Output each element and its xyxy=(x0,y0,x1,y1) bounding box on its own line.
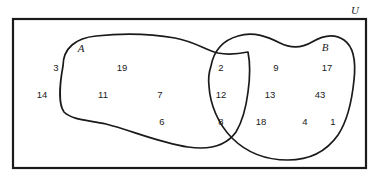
region-b-only-elements: 9 17 13 43 18 4 1 xyxy=(256,62,336,127)
element-value: 18 xyxy=(256,116,267,127)
venn-diagram-canvas: U A B 3 19 14 11 7 6 2 12 8 9 17 13 43 1… xyxy=(0,0,378,182)
element-value: 17 xyxy=(322,62,333,73)
venn-diagram-svg: U A B 3 19 14 11 7 6 2 12 8 9 17 13 43 1… xyxy=(0,0,378,182)
universe-label: U xyxy=(351,4,360,16)
element-value: 6 xyxy=(159,116,164,127)
element-value: 2 xyxy=(218,62,223,73)
element-value: 43 xyxy=(315,89,326,100)
element-value: 3 xyxy=(53,62,58,73)
set-a-label: A xyxy=(77,42,85,54)
region-a-only-elements: 3 19 14 11 7 6 xyxy=(37,62,165,127)
element-value: 13 xyxy=(265,89,276,100)
element-value: 11 xyxy=(98,89,108,100)
set-b-outline xyxy=(209,34,355,160)
element-value: 12 xyxy=(216,89,227,100)
element-value: 1 xyxy=(330,116,335,127)
set-b-label: B xyxy=(322,41,329,53)
element-value: 4 xyxy=(302,116,307,127)
element-value: 7 xyxy=(157,89,162,100)
element-value: 9 xyxy=(273,62,278,73)
element-value: 8 xyxy=(218,116,223,127)
element-value: 14 xyxy=(37,89,48,100)
element-value: 19 xyxy=(117,62,128,73)
